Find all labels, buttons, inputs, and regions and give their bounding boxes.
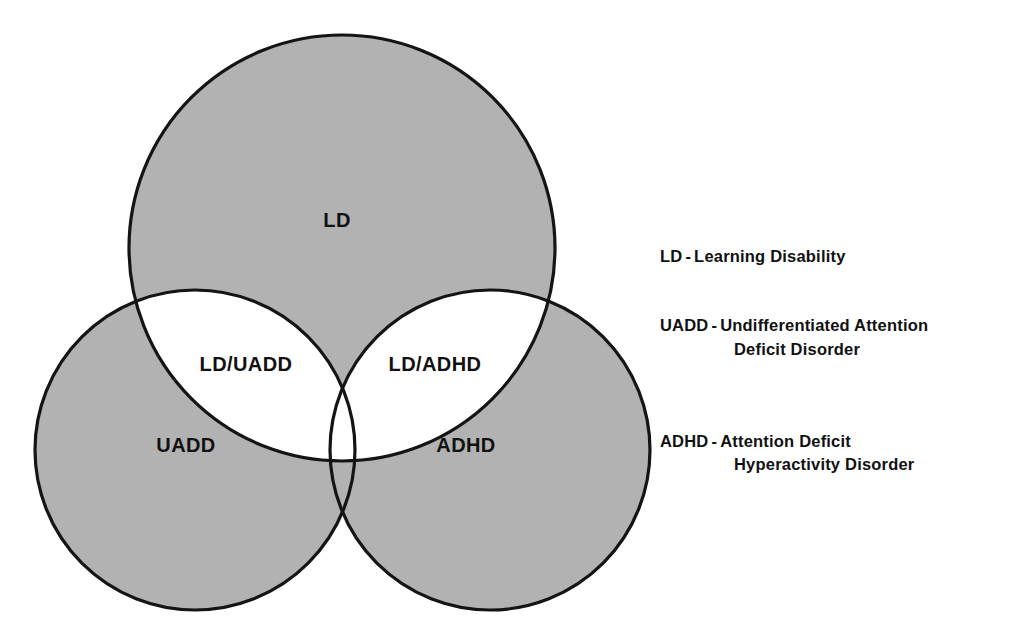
legend-term-ld: LD [660,247,682,265]
legend-dash-uadd: - [708,316,720,334]
legend-term-adhd: ADHD [660,432,708,450]
legend-dash-ld: - [682,247,694,265]
legend-definition-uadd-line2: Deficit Disorder [660,338,1006,361]
legend-item-uadd: UADD-Undifferentiated Attention Deficit … [660,291,1006,385]
legend-item-adhd: ADHD-Attention Deficit Hyperactivity Dis… [660,407,1006,501]
legend: LD-Learning Disability UADD-Undifferenti… [660,222,1006,500]
label-ld-uadd: LD/UADD [200,353,293,375]
legend-definition-uadd: Undifferentiated Attention [720,316,928,334]
legend-dash-adhd: - [708,432,720,450]
label-uadd: UADD [156,434,215,456]
legend-term-uadd: UADD [660,316,708,334]
label-adhd: ADHD [436,434,495,456]
legend-definition-ld: Learning Disability [694,247,845,265]
legend-definition-adhd: Attention Deficit [720,432,851,450]
legend-item-ld: LD-Learning Disability [660,222,1006,269]
venn-diagram-figure: LD UADD ADHD LD/UADD LD/ADHD LD-Learning… [0,0,1022,621]
label-ld: LD [323,209,350,231]
legend-definition-adhd-line2: Hyperactivity Disorder [660,453,1006,476]
label-ld-adhd: LD/ADHD [389,353,482,375]
